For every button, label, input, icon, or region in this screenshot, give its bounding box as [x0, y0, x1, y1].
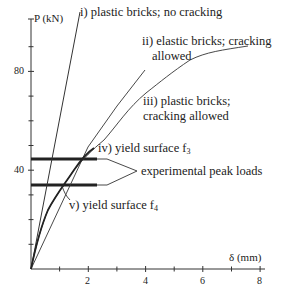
label-curve-iii-line1: iii) plastic bricks;	[143, 95, 230, 108]
x-axis-title: δ (mm)	[229, 252, 261, 263]
x-tick-2: 2	[85, 276, 90, 286]
label-curve-v-sub: 4	[154, 204, 158, 213]
label-curve-iii-line2: cracking allowed	[143, 110, 229, 123]
label-curve-v: v) yield surface f4	[69, 199, 158, 213]
curve-ii-elastic-cracking	[31, 70, 145, 269]
label-experimental-peak-loads: experimental peak loads	[141, 165, 262, 178]
label-curve-i: i) plastic bricks; no cracking	[80, 6, 222, 19]
label-curve-ii-line2: allowed	[152, 50, 192, 63]
x-tick-8: 8	[257, 276, 262, 286]
experimental-peak-bars	[31, 159, 97, 185]
curve-i-plastic-no-cracking	[31, 12, 80, 269]
y-axis-title: P (kN)	[34, 13, 63, 24]
label-curve-iv: iv) yield surface f3	[98, 142, 191, 156]
x-tick-4: 4	[143, 276, 148, 286]
y-tick-80: 80	[14, 66, 24, 76]
experimental-bracket	[97, 159, 137, 185]
label-curve-ii-line1: ii) elastic bricks; cracking	[142, 35, 271, 48]
x-tick-6: 6	[200, 276, 205, 286]
x-axis	[31, 266, 265, 272]
label-curve-iv-text: iv) yield surface f	[98, 141, 187, 155]
y-axis	[28, 19, 34, 269]
label-curve-iv-sub: 3	[187, 147, 191, 156]
y-tick-40: 40	[14, 165, 24, 175]
label-curve-v-text: v) yield surface f	[69, 198, 154, 212]
